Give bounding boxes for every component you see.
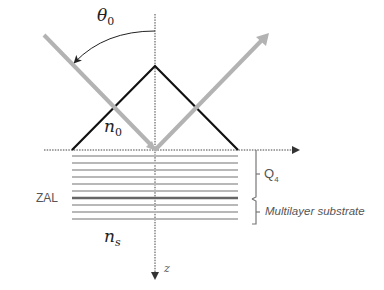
incident-ray: [44, 35, 152, 146]
z-axis-label: z: [164, 263, 170, 274]
q4-label: Q4: [264, 167, 279, 184]
reflected-ray: [155, 40, 262, 150]
reflection-diagram: θ0 n0 ns z ZAL Q4 Multilayer substrate: [0, 0, 384, 290]
multilayer-substrate-label: Multilayer substrate: [265, 206, 365, 218]
zal-label: ZAL: [36, 192, 58, 204]
theta-angle-arc: [75, 31, 155, 62]
q4-bracket: [252, 150, 260, 199]
multilayer-bracket: [252, 199, 260, 224]
theta-label: θ0: [97, 7, 114, 27]
n0-label: n0: [104, 118, 122, 138]
ns-label: ns: [104, 228, 121, 248]
prism-outline: [72, 66, 238, 150]
diagram-canvas: [0, 0, 384, 290]
